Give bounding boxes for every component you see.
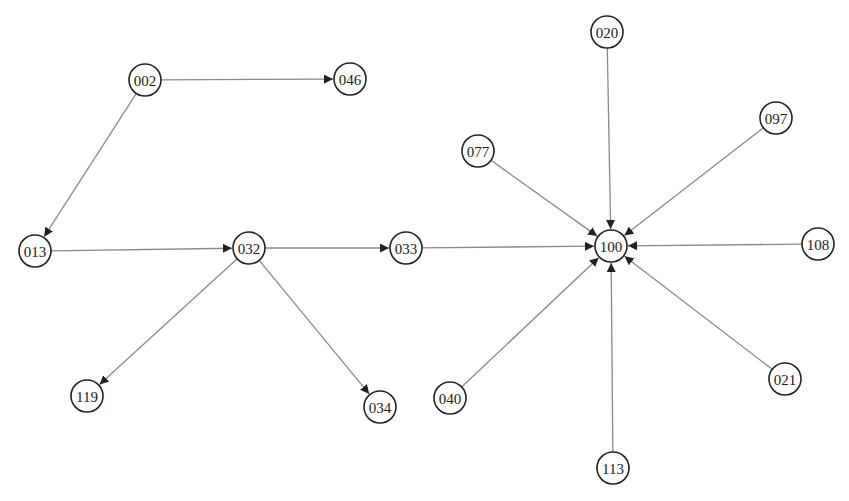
node-label: 020: [596, 25, 619, 41]
node-113: 113: [597, 452, 629, 484]
edge-020-to-100: [607, 48, 610, 229]
node-label: 034: [369, 400, 392, 416]
node-040: 040: [434, 382, 466, 414]
node-032: 032: [233, 232, 265, 264]
node-119: 119: [71, 380, 103, 412]
node-label: 100: [600, 239, 623, 255]
edge-032-to-119: [100, 259, 238, 385]
node-033: 033: [390, 232, 422, 264]
edge-077-to-100: [491, 160, 597, 236]
edge-097-to-100: [624, 128, 763, 236]
node-label: 032: [238, 241, 261, 257]
node-100: 100: [595, 230, 627, 262]
node-013: 013: [19, 235, 51, 267]
node-label: 002: [134, 73, 157, 89]
edges-layer: [44, 48, 802, 452]
node-label: 119: [76, 389, 98, 405]
edge-033-to-100: [422, 246, 594, 248]
node-label: 108: [807, 237, 830, 253]
edge-013-to-032: [51, 248, 232, 251]
node-label: 040: [439, 391, 462, 407]
node-034: 034: [364, 391, 396, 423]
node-label: 013: [24, 244, 47, 260]
node-label: 077: [467, 144, 490, 160]
node-label: 021: [774, 372, 797, 388]
edge-032-to-034: [259, 260, 369, 394]
edge-002-to-046: [161, 79, 333, 80]
node-label: 113: [602, 461, 624, 477]
node-002: 002: [129, 64, 161, 96]
edge-021-to-100: [625, 256, 773, 369]
node-label: 033: [395, 241, 418, 257]
node-077: 077: [462, 135, 494, 167]
node-021: 021: [769, 363, 801, 395]
edge-002-to-013: [44, 93, 136, 236]
edge-040-to-100: [462, 258, 599, 387]
node-label: 097: [765, 111, 788, 127]
edge-113-to-100: [611, 263, 613, 452]
directed-graph: 0020460130320331190340200970771001080401…: [0, 0, 849, 501]
node-046: 046: [334, 63, 366, 95]
node-097: 097: [760, 102, 792, 134]
edge-108-to-100: [628, 244, 802, 246]
node-020: 020: [591, 16, 623, 48]
node-label: 046: [339, 72, 362, 88]
node-108: 108: [802, 228, 834, 260]
